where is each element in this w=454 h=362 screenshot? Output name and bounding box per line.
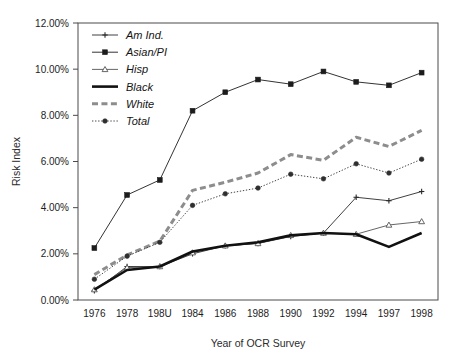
x-tick-label: 1988 bbox=[247, 308, 270, 319]
y-axis: 0.00%2.00%4.00%6.00%8.00%10.00%12.00% bbox=[35, 18, 78, 306]
data-point-total bbox=[190, 203, 195, 208]
series-line-hisp bbox=[94, 222, 421, 290]
legend-label-total: Total bbox=[126, 115, 150, 127]
data-point-asian-pi bbox=[157, 178, 162, 183]
data-point-asian-pi bbox=[387, 83, 392, 88]
x-tick-label: 1984 bbox=[181, 308, 204, 319]
x-axis-title: Year of OCR Survey bbox=[211, 337, 306, 349]
y-tick-label: 4.00% bbox=[41, 202, 69, 213]
data-point-hisp bbox=[419, 219, 425, 224]
data-point-asian-pi bbox=[92, 246, 97, 251]
series-white bbox=[94, 130, 421, 274]
y-tick-label: 12.00% bbox=[35, 18, 69, 29]
legend-item-asian-pi[interactable]: Asian/PI bbox=[92, 46, 167, 58]
x-tick-label: 1976 bbox=[83, 308, 106, 319]
data-point-total bbox=[354, 162, 359, 167]
x-tick-label: 1986 bbox=[214, 308, 237, 319]
series-line-black bbox=[94, 233, 421, 290]
legend-label-white: White bbox=[126, 98, 154, 110]
x-axis: 19761978198U1984198619881990199219941997… bbox=[83, 308, 433, 319]
legend-item-am-ind[interactable]: Am Ind. bbox=[92, 29, 164, 41]
y-tick-label: 0.00% bbox=[41, 295, 69, 306]
x-tick-label: 1997 bbox=[378, 308, 401, 319]
y-axis-title: Risk Index bbox=[10, 136, 22, 186]
x-tick-label: 1992 bbox=[312, 308, 335, 319]
legend-item-black[interactable]: Black bbox=[92, 81, 153, 93]
x-tick-label: 1994 bbox=[345, 308, 368, 319]
line-chart: 0.00%2.00%4.00%6.00%8.00%10.00%12.00%197… bbox=[0, 0, 454, 362]
data-point-total bbox=[223, 192, 228, 197]
y-tick-label: 2.00% bbox=[41, 248, 69, 259]
x-tick-label: 1990 bbox=[280, 308, 303, 319]
legend-label-asian-pi: Asian/PI bbox=[125, 46, 167, 58]
data-point-total bbox=[288, 172, 293, 177]
y-tick-label: 6.00% bbox=[41, 156, 69, 167]
data-point-asian-pi bbox=[288, 82, 293, 87]
data-point-asian-pi bbox=[125, 193, 130, 198]
legend-label-black: Black bbox=[126, 81, 153, 93]
data-point-total bbox=[158, 240, 163, 245]
data-point-total bbox=[321, 177, 326, 182]
data-point-total bbox=[256, 186, 261, 191]
legend-label-am-ind: Am Ind. bbox=[125, 29, 164, 41]
legend-item-white[interactable]: White bbox=[92, 98, 154, 110]
x-tick-label: 198U bbox=[148, 308, 172, 319]
data-point-asian-pi bbox=[419, 70, 424, 75]
data-point-asian-pi bbox=[223, 90, 228, 95]
y-tick-label: 8.00% bbox=[41, 110, 69, 121]
data-point-asian-pi bbox=[321, 69, 326, 74]
series-black bbox=[94, 233, 421, 290]
x-tick-label: 1998 bbox=[411, 308, 434, 319]
data-point-asian-pi bbox=[190, 108, 195, 113]
legend-item-hisp[interactable]: Hisp bbox=[92, 63, 148, 75]
data-point-total bbox=[125, 254, 130, 259]
legend-marker-total bbox=[103, 119, 108, 124]
series-line-white bbox=[94, 130, 421, 274]
data-point-total bbox=[419, 157, 424, 162]
legend-label-hisp: Hisp bbox=[126, 63, 148, 75]
legend-item-total[interactable]: Total bbox=[92, 115, 150, 127]
data-point-total bbox=[387, 171, 392, 176]
legend-marker-asian-pi bbox=[103, 50, 108, 55]
data-point-asian-pi bbox=[354, 79, 359, 84]
data-point-total bbox=[92, 277, 97, 282]
series-total bbox=[92, 157, 424, 282]
chart-figure: 0.00%2.00%4.00%6.00%8.00%10.00%12.00%197… bbox=[0, 0, 454, 362]
series-line-total bbox=[94, 159, 421, 279]
x-tick-label: 1978 bbox=[116, 308, 139, 319]
data-point-asian-pi bbox=[256, 77, 261, 82]
y-tick-label: 10.00% bbox=[35, 64, 69, 75]
series-asian-pi bbox=[92, 69, 424, 250]
series-hisp bbox=[91, 219, 424, 292]
chart-legend: Am Ind.Asian/PIHispBlackWhiteTotal bbox=[92, 29, 167, 127]
